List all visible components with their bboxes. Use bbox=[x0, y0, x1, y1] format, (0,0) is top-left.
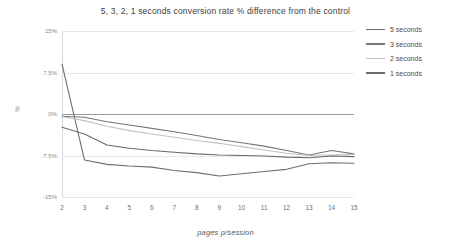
series-lines bbox=[62, 31, 354, 197]
legend-label: 2 seconds bbox=[390, 55, 422, 62]
legend-swatch-icon bbox=[366, 29, 385, 31]
legend-item[interactable]: 3 seconds bbox=[366, 41, 422, 48]
legend-swatch-icon bbox=[366, 72, 385, 74]
y-tick-label: -7.5% bbox=[41, 153, 57, 159]
series-line bbox=[62, 116, 354, 155]
x-tick-label: 3 bbox=[83, 204, 87, 211]
y-axis-label: % bbox=[14, 106, 21, 112]
x-tick-label: 11 bbox=[261, 204, 268, 211]
x-tick-label: 8 bbox=[195, 204, 199, 211]
x-tick-label: 10 bbox=[238, 204, 245, 211]
x-tick-label: 5 bbox=[128, 204, 132, 211]
chart-legend: 5 seconds3 seconds2 seconds1 seconds bbox=[366, 26, 422, 77]
x-tick-label: 6 bbox=[150, 204, 154, 211]
y-tick-label: 0% bbox=[48, 111, 57, 117]
y-tick-label: 15% bbox=[45, 28, 57, 34]
series-line bbox=[62, 64, 354, 176]
gridline bbox=[62, 197, 354, 198]
legend-item[interactable]: 1 seconds bbox=[366, 70, 422, 77]
series-line bbox=[62, 117, 354, 156]
plot-area: 15%7.5%0%-7.5%-15% 23456789101112131415 bbox=[62, 31, 354, 197]
x-tick-label: 4 bbox=[105, 204, 109, 211]
x-tick-label: 13 bbox=[305, 204, 312, 211]
legend-label: 1 seconds bbox=[390, 70, 422, 77]
legend-item[interactable]: 5 seconds bbox=[366, 26, 422, 33]
chart-container: 5, 3, 2, 1 seconds conversion rate % dif… bbox=[0, 0, 451, 250]
legend-swatch-icon bbox=[366, 43, 385, 45]
chart-title: 5, 3, 2, 1 seconds conversion rate % dif… bbox=[0, 6, 451, 16]
y-tick-label: 7.5% bbox=[43, 70, 57, 76]
x-tick-label: 2 bbox=[60, 204, 64, 211]
x-tick-label: 12 bbox=[283, 204, 290, 211]
legend-label: 3 seconds bbox=[390, 41, 422, 48]
x-tick-label: 15 bbox=[350, 204, 357, 211]
y-tick-label: -15% bbox=[43, 194, 57, 200]
x-tick-label: 7 bbox=[172, 204, 176, 211]
x-axis-label: pages p/session bbox=[0, 228, 451, 237]
x-tick-label: 14 bbox=[328, 204, 335, 211]
x-tick-label: 9 bbox=[217, 204, 221, 211]
legend-swatch-icon bbox=[366, 58, 385, 60]
legend-item[interactable]: 2 seconds bbox=[366, 55, 422, 62]
legend-label: 5 seconds bbox=[390, 26, 422, 33]
